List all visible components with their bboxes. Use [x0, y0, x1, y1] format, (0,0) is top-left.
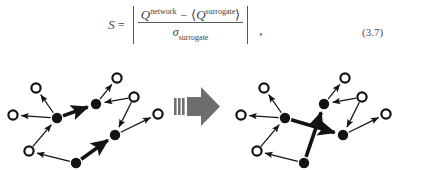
angle-bracket-close: ⟩ [235, 7, 240, 22]
network-node-open [236, 110, 245, 119]
network-node-filled [52, 113, 62, 123]
network-node-open [340, 73, 349, 82]
network-after-nodes [236, 73, 390, 168]
network-node-filled [110, 130, 120, 140]
network-node-open [31, 83, 40, 92]
numerator-operator: − [180, 8, 187, 22]
network-edge [291, 120, 334, 133]
network-edge [41, 95, 54, 113]
network-node-open [24, 146, 33, 155]
network-edge [119, 102, 131, 127]
network-node-open [357, 92, 366, 101]
network-node-open [153, 109, 162, 118]
numerator-first-symbol: Q [141, 7, 150, 22]
network-edge [100, 84, 112, 99]
network-node-open [129, 92, 138, 101]
denominator-subscript: surrogate [179, 33, 209, 42]
network-node-open [381, 109, 390, 118]
network-edge [333, 98, 357, 102]
network-edge [265, 153, 298, 161]
network-node-filled [338, 130, 348, 140]
network-edge [121, 118, 151, 133]
network-edge [21, 116, 50, 118]
equation-block: S = Qnetwork−⟨Qsurrogate⟩ σsurrogate , (… [0, 6, 425, 54]
network-node-open [259, 83, 268, 92]
equation-number: (3.7) [362, 26, 383, 38]
network-edge [249, 116, 278, 118]
network-node-filled [319, 99, 329, 109]
network-diagram-after [228, 56, 408, 170]
network-node-open [112, 73, 121, 82]
network-edge [306, 112, 321, 157]
network-edge [269, 95, 282, 113]
numerator-second-symbol: Q [196, 7, 205, 22]
network-edge [261, 125, 280, 147]
network-diagram-before [0, 56, 175, 170]
equation-expression: S = Qnetwork−⟨Qsurrogate⟩ σsurrogate , [108, 6, 263, 44]
equation-relation-symbol: = [118, 18, 125, 33]
network-edge [63, 107, 88, 116]
figure-block [0, 56, 425, 170]
numerator-second-superscript: surrogate [206, 7, 236, 16]
network-node-filled [71, 158, 81, 168]
network-node-open [8, 110, 17, 119]
network-edge [33, 125, 52, 147]
network-node-filled [280, 113, 290, 123]
absolute-value-bar-left [133, 6, 134, 44]
equation-numerator: Qnetwork−⟨Qsurrogate⟩ [138, 8, 244, 23]
numerator-first-superscript: network [150, 7, 176, 16]
network-node-open [252, 146, 261, 155]
network-node-filled [299, 158, 309, 168]
network-edge [105, 98, 129, 102]
network-edge [37, 153, 70, 161]
equation-fraction: Qnetwork−⟨Qsurrogate⟩ σsurrogate [138, 8, 244, 43]
network-node-filled [91, 99, 101, 109]
equation-lhs-symbol: S [108, 17, 115, 33]
equation-trailing-punctuation: , [259, 22, 262, 44]
block-arrow-right-icon [174, 84, 226, 130]
network-edge [349, 118, 379, 133]
network-edge [81, 140, 108, 159]
network-edge [347, 102, 359, 127]
absolute-value-bar-right [247, 6, 248, 44]
network-edge [328, 84, 340, 99]
equation-denominator: σsurrogate [170, 23, 212, 42]
